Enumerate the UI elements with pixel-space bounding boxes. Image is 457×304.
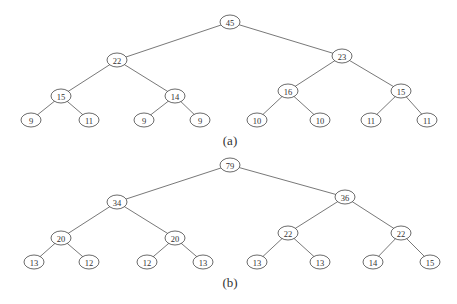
tree-node: 23 [332, 49, 352, 63]
tree-node: 10 [247, 113, 267, 127]
tree-node: 13 [24, 255, 44, 269]
tree-b-edges [34, 165, 430, 262]
node-value: 14 [369, 258, 378, 268]
tree-node: 11 [361, 113, 381, 127]
tree-node: 11 [417, 113, 437, 127]
tree-edge [61, 60, 117, 96]
node-value: 11 [85, 116, 93, 126]
tree-node: 15 [420, 255, 440, 269]
tree-b-nodes: 793436202022221312121313131415 [24, 158, 440, 269]
tree-node: 20 [51, 231, 71, 245]
tree-node: 10 [310, 113, 330, 127]
node-value: 12 [143, 258, 152, 268]
node-value: 9 [198, 116, 202, 126]
node-value: 9 [142, 116, 146, 126]
tree-node: 13 [193, 255, 213, 269]
tree-node: 12 [79, 255, 99, 269]
node-value: 11 [423, 116, 431, 126]
tree-a: 452223151416159119910101111 (a) [21, 15, 437, 148]
tree-edge [345, 197, 401, 233]
tree-node: 9 [134, 113, 154, 127]
tree-edge [117, 60, 175, 96]
node-value: 10 [253, 116, 262, 126]
node-value: 23 [338, 52, 347, 62]
node-value: 34 [113, 198, 122, 208]
node-value: 15 [397, 87, 406, 97]
tree-edge [288, 56, 342, 91]
node-value: 36 [341, 193, 350, 203]
tree-a-nodes: 452223151416159119910101111 [21, 15, 437, 127]
tree-node: 14 [363, 255, 383, 269]
node-value: 79 [226, 161, 235, 171]
tree-node: 9 [21, 113, 41, 127]
tree-node: 45 [220, 15, 240, 29]
node-value: 22 [284, 229, 293, 239]
tree-edge [117, 165, 230, 202]
node-value: 16 [284, 87, 293, 97]
tree-node: 22 [391, 226, 411, 240]
tree-b: 793436202022221312121313131415 (b) [24, 158, 440, 290]
node-value: 13 [316, 258, 325, 268]
node-value: 13 [30, 258, 39, 268]
tree-node: 22 [278, 226, 298, 240]
node-value: 14 [171, 92, 180, 102]
tree-node: 34 [107, 195, 127, 209]
node-value: 45 [226, 18, 235, 28]
tree-b-caption: (b) [222, 275, 237, 290]
tree-edge [342, 56, 401, 91]
tree-node: 14 [165, 89, 185, 103]
tree-edge [61, 202, 117, 238]
node-value: 22 [113, 56, 122, 66]
tree-node: 12 [137, 255, 157, 269]
tree-node: 20 [165, 231, 185, 245]
tree-edge [288, 197, 345, 233]
node-value: 12 [85, 258, 94, 268]
tree-edge [230, 22, 342, 56]
tree-a-caption: (a) [223, 133, 237, 148]
tree-node: 15 [51, 89, 71, 103]
tree-node: 79 [220, 158, 240, 172]
tree-node: 9 [190, 113, 210, 127]
binary-tree-diagram: 452223151416159119910101111 (a) 79343620… [0, 0, 457, 304]
tree-node: 11 [79, 113, 99, 127]
node-value: 9 [29, 116, 33, 126]
tree-edge [230, 165, 345, 197]
node-value: 20 [57, 234, 66, 244]
tree-edge [117, 22, 230, 60]
node-value: 13 [253, 258, 262, 268]
node-value: 10 [316, 116, 325, 126]
node-value: 11 [367, 116, 375, 126]
tree-node: 16 [278, 84, 298, 98]
tree-edge [117, 202, 175, 238]
node-value: 15 [426, 258, 435, 268]
tree-node: 22 [107, 53, 127, 67]
node-value: 15 [57, 92, 66, 102]
node-value: 22 [397, 229, 406, 239]
tree-node: 15 [391, 84, 411, 98]
tree-node: 13 [310, 255, 330, 269]
node-value: 13 [199, 258, 208, 268]
tree-node: 36 [335, 190, 355, 204]
node-value: 20 [171, 234, 180, 244]
tree-a-edges [31, 22, 427, 120]
tree-node: 13 [247, 255, 267, 269]
